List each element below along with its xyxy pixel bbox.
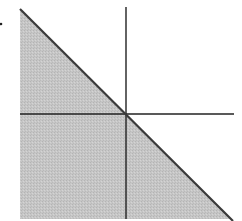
diagram-canvas [0,0,242,221]
marker-dot [0,23,2,26]
